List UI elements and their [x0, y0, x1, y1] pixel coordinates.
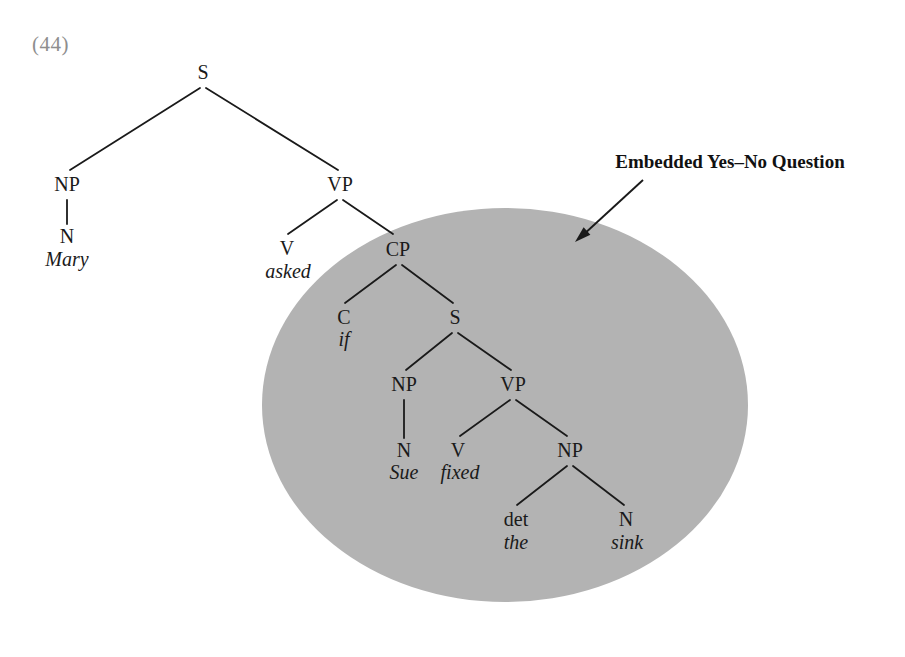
tree-node-VP-main: VP — [327, 174, 353, 194]
tree-branch — [70, 88, 200, 170]
tree-branch — [343, 200, 393, 234]
tree-node-CP: CP — [386, 239, 410, 259]
tree-node-N-sue: N — [397, 440, 411, 460]
tree-terminal-word-fixed: fixed — [441, 462, 480, 482]
tree-node-V-fixed: V — [451, 440, 465, 460]
syntax-tree-figure: (44) SNPVPNVCPCSNPVPNVNPdetNMaryaskedifS… — [0, 0, 905, 657]
tree-node-NP-subj: NP — [54, 174, 80, 194]
tree-node-NP-obj: NP — [557, 440, 583, 460]
annotation-embedded-yes-no-question: Embedded Yes–No Question — [615, 152, 844, 171]
tree-node-det-the: det — [504, 509, 528, 529]
example-number: (44) — [32, 32, 69, 57]
tree-node-N-mary: N — [60, 226, 74, 246]
tree-terminal-word-if: if — [338, 329, 349, 349]
tree-node-VP-embedded: VP — [500, 374, 526, 394]
tree-node-S-root: S — [197, 62, 208, 82]
annotation-arrow-shaft — [582, 180, 643, 236]
tree-terminal-word-sue: Sue — [390, 462, 419, 482]
tree-terminal-word-sink: sink — [611, 532, 643, 552]
tree-node-V-asked: V — [280, 238, 294, 258]
tree-node-N-sink: N — [619, 509, 633, 529]
tree-branch — [206, 88, 338, 170]
tree-terminal-word-the: the — [504, 532, 528, 552]
tree-terminal-word-asked: asked — [265, 261, 311, 281]
tree-terminal-word-mary: Mary — [45, 249, 88, 269]
tree-node-S-embedded: S — [449, 307, 460, 327]
tree-node-C-if: C — [337, 307, 350, 327]
tree-branch — [288, 200, 337, 234]
tree-node-NP-sue: NP — [391, 374, 417, 394]
tree-canvas — [0, 0, 905, 657]
